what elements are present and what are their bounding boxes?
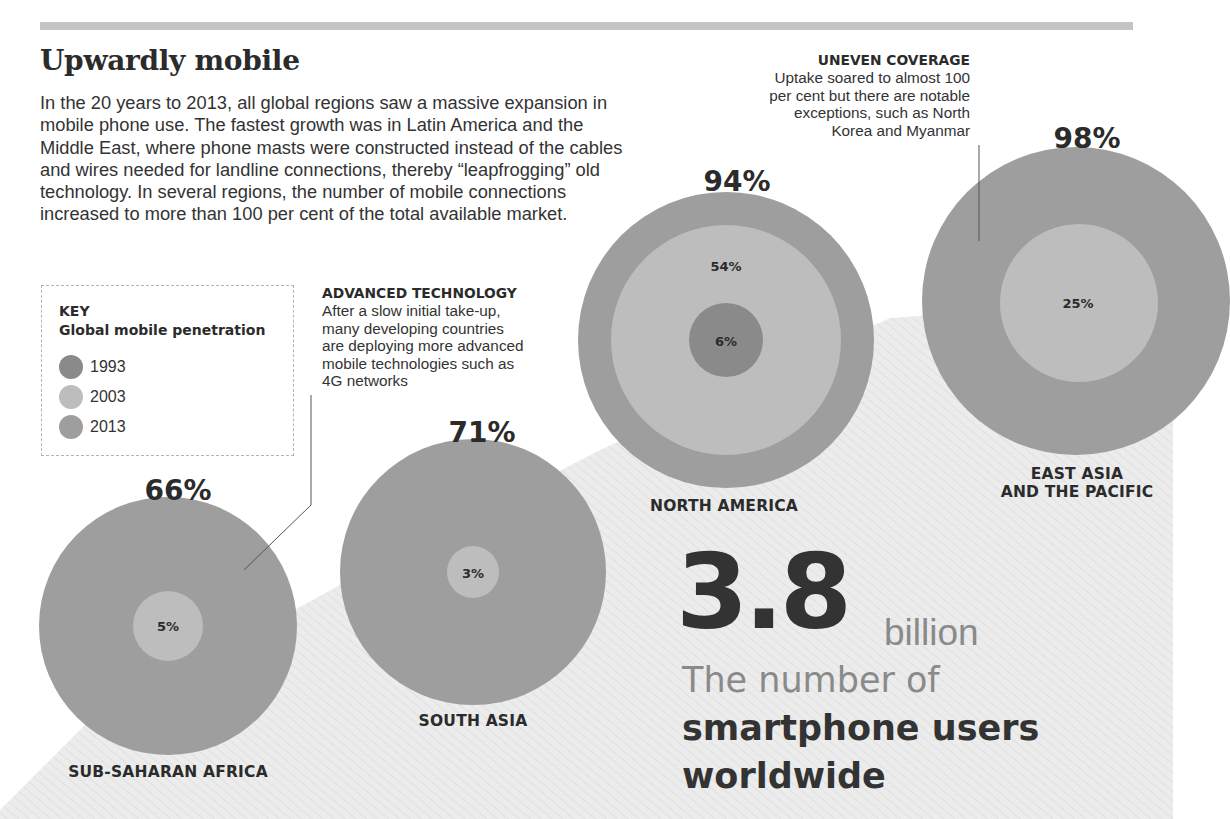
note-uneven-coverage: UNEVEN COVERAGE Uptake soared to almost … xyxy=(769,52,970,139)
intro-paragraph: In the 20 years to 2013, all global regi… xyxy=(40,92,640,226)
stat-unit: billion xyxy=(884,612,979,654)
swatch-2013-icon xyxy=(59,415,83,439)
stat-number: 3.8 xyxy=(676,540,848,644)
legend-item-2013: 2013 xyxy=(59,415,126,439)
na-1993-value: 6% xyxy=(715,334,737,349)
ssa-2013-value: 66% xyxy=(144,474,211,507)
region-label-ssa: SUB-SAHARAN AFRICA xyxy=(68,763,268,781)
top-rule xyxy=(40,22,1133,30)
swatch-2003-icon xyxy=(59,385,83,409)
na-2013-value: 94% xyxy=(703,165,770,198)
na-2003-value: 54% xyxy=(710,259,741,274)
swatch-1993-icon xyxy=(59,355,83,379)
ssa-2003-value: 5% xyxy=(157,619,179,634)
legend-title: KEY Global mobile penetration xyxy=(59,302,265,340)
page-title: Upwardly mobile xyxy=(40,44,300,77)
east-asia-2013-value: 98% xyxy=(1053,122,1120,155)
region-label-south-asia: SOUTH ASIA xyxy=(419,712,528,730)
east-asia-2003-value: 25% xyxy=(1062,296,1093,311)
legend-item-2003: 2003 xyxy=(59,385,126,409)
legend-box: KEY Global mobile penetration 1993 2003 … xyxy=(41,285,294,456)
note-advanced-technology: ADVANCED TECHNOLOGY After a slow initial… xyxy=(322,285,524,389)
stat-caption-line2: smartphone users xyxy=(682,708,1039,748)
region-label-east-asia: EAST ASIA AND THE PACIFIC xyxy=(1001,465,1154,501)
south-asia-2003-value: 3% xyxy=(462,566,484,581)
region-label-north-america: NORTH AMERICA xyxy=(650,497,798,515)
stat-caption-line1: The number of xyxy=(682,660,940,700)
south-asia-2013-value: 71% xyxy=(448,416,515,449)
stat-caption-line3: worldwide xyxy=(682,756,886,796)
legend-item-1993: 1993 xyxy=(59,355,126,379)
